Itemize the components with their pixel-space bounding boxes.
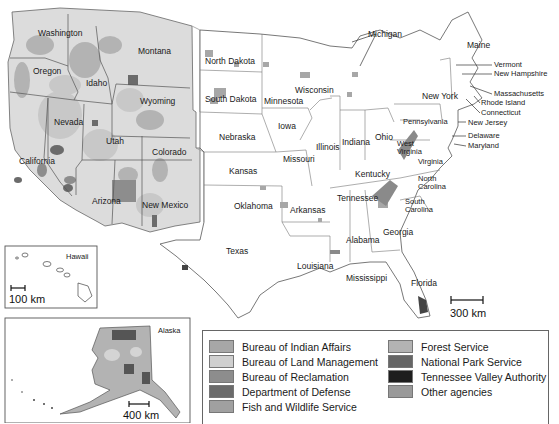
swatch-other <box>388 385 413 398</box>
label-texas: Texas <box>226 247 248 256</box>
legend-label: Bureau of Land Management <box>242 356 378 368</box>
label-delaware: Delaware <box>468 132 500 140</box>
legend-item-other: Other agencies <box>388 384 546 399</box>
legend-item-nps: National Park Service <box>388 354 546 369</box>
label-idaho: Idaho <box>86 79 107 88</box>
label-oklahoma: Oklahoma <box>234 202 273 211</box>
legend-label: National Park Service <box>421 356 522 368</box>
label-arkansas: Arkansas <box>290 206 325 215</box>
legend-item-fws: Fish and Wildlife Service <box>209 399 378 414</box>
label-rhode-island: Rhode Island <box>481 99 525 107</box>
label-nevada: Nevada <box>54 118 83 127</box>
label-kansas: Kansas <box>229 167 257 176</box>
alaska-scale-label: 400 km <box>123 409 159 421</box>
label-colorado: Colorado <box>152 148 187 157</box>
label-maine: Maine <box>467 41 490 50</box>
legend-item-blm: Bureau of Land Management <box>209 354 378 369</box>
hawaii-scale-label: 100 km <box>9 293 45 305</box>
swatch-dod <box>209 385 234 398</box>
label-california: California <box>19 157 55 166</box>
hawaii-title: Hawaii <box>66 253 89 261</box>
label-wisconsin: Wisconsin <box>295 86 334 95</box>
swatch-fws <box>209 400 234 413</box>
legend-item-fs: Forest Service <box>388 339 546 354</box>
label-massachusetts: Massachusetts <box>494 90 544 98</box>
label-virginia: Virginia <box>418 158 443 166</box>
label-new-hampshire: New Hampshire <box>494 70 547 78</box>
legend-item-dod: Department of Defense <box>209 384 378 399</box>
legend-item-tva: Tennessee Valley Authority <box>388 369 546 384</box>
label-kentucky: Kentucky <box>355 170 390 179</box>
swatch-blm <box>209 355 234 368</box>
legend-label: Bureau of Indian Affairs <box>242 341 351 353</box>
swatch-bia <box>209 340 234 353</box>
label-new-york: New York <box>422 92 458 101</box>
label-vermont: Vermont <box>494 61 522 69</box>
label-arizona: Arizona <box>92 197 121 206</box>
label-north-carolina: North Carolina <box>418 175 454 190</box>
label-missouri: Missouri <box>283 155 315 164</box>
label-georgia: Georgia <box>383 228 413 237</box>
label-new-mexico: New Mexico <box>142 201 188 210</box>
main-scale-label: 300 km <box>450 307 486 319</box>
label-ohio: Ohio <box>375 133 393 142</box>
label-north-dakota: North Dakota <box>205 57 255 66</box>
legend-label: Department of Defense <box>242 386 351 398</box>
label-alabama: Alabama <box>346 236 380 245</box>
legend-label: Forest Service <box>421 341 489 353</box>
label-west-virginia: West Virginia <box>397 140 427 155</box>
alaska-title: Alaska <box>158 327 181 335</box>
label-mississippi: Mississippi <box>346 274 387 283</box>
label-new-jersey: New Jersey <box>468 119 507 127</box>
swatch-tva <box>388 370 413 383</box>
swatch-nps <box>388 355 413 368</box>
label-pennsylvania: Pennsylvania <box>403 118 448 126</box>
label-louisiana: Louisiana <box>297 262 333 271</box>
label-washington: Washington <box>38 29 83 38</box>
legend-label: Bureau of Reclamation <box>242 371 349 383</box>
label-tennessee: Tennessee <box>337 194 378 203</box>
label-iowa: Iowa <box>278 122 296 131</box>
label-florida: Florida <box>411 279 437 288</box>
label-nebraska: Nebraska <box>219 133 255 142</box>
main-scale-bar <box>451 296 483 304</box>
label-oregon: Oregon <box>33 67 61 76</box>
label-utah: Utah <box>106 137 124 146</box>
label-south-carolina: South Carolina <box>405 198 441 213</box>
legend-column-right: Forest Service National Park Service Ten… <box>388 339 546 399</box>
legend-item-bor: Bureau of Reclamation <box>209 369 378 384</box>
label-michigan: Michigan <box>368 30 402 39</box>
label-illinois: Illinois <box>316 143 340 152</box>
swatch-bor <box>209 370 234 383</box>
label-montana: Montana <box>138 47 171 56</box>
label-minnesota: Minnesota <box>264 97 303 106</box>
legend-column-left: Bureau of Indian Affairs Bureau of Land … <box>209 339 378 414</box>
label-south-dakota: South Dakota <box>205 95 257 104</box>
legend: Bureau of Indian Affairs Bureau of Land … <box>202 330 549 424</box>
label-wyoming: Wyoming <box>140 97 175 106</box>
label-connecticut: Connecticut <box>481 109 521 117</box>
legend-label: Fish and Wildlife Service <box>242 401 357 413</box>
swatch-fs <box>388 340 413 353</box>
legend-label: Tennessee Valley Authority <box>421 371 546 383</box>
label-indiana: Indiana <box>342 138 370 147</box>
legend-item-bia: Bureau of Indian Affairs <box>209 339 378 354</box>
legend-label: Other agencies <box>421 386 492 398</box>
label-maryland: Maryland <box>468 142 499 150</box>
